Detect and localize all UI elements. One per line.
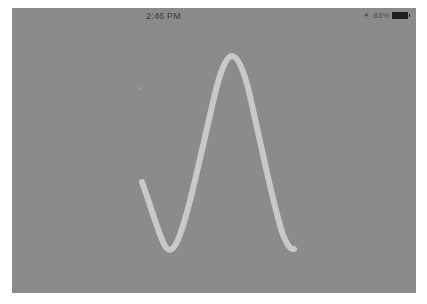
device-screen: 2:46 PM ✶ 83% <box>12 8 416 293</box>
drawn-stroke <box>142 56 294 250</box>
stray-mark <box>138 87 141 90</box>
drawing-canvas[interactable] <box>12 8 416 293</box>
